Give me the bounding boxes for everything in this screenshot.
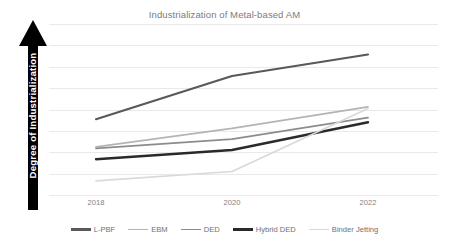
legend-swatch-icon [233,228,253,230]
legend-label: L-PBF [94,225,116,234]
legend-item-ded[interactable]: DED [181,225,220,234]
legend-swatch-icon [309,229,329,231]
legend-label: EBM [151,225,167,234]
legend-item-hybrid-ded[interactable]: Hybrid DED [233,225,296,234]
x-axis: 201820202022 [49,198,438,214]
series-line-l-pbf [96,55,368,120]
legend-item-l-pbf[interactable]: L-PBF [71,225,116,234]
series-lines [49,24,438,196]
legend-swatch-icon [128,229,148,231]
plot-area [49,24,438,196]
series-line-ded [96,118,368,149]
legend-item-ebm[interactable]: EBM [128,225,167,234]
legend-label: DED [204,225,220,234]
legend-label: Binder Jetting [332,225,378,234]
x-tick-label-2022: 2022 [360,198,377,207]
chart-container: Industrialization of Metal-based AM Degr… [0,0,449,246]
legend-item-binder-jetting[interactable]: Binder Jetting [309,225,378,234]
chart-title: Industrialization of Metal-based AM [0,9,449,20]
legend-label: Hybrid DED [256,225,296,234]
legend-swatch-icon [181,229,201,231]
y-axis-arrow [18,20,48,210]
series-line-binder-jetting [96,108,368,180]
legend-swatch-icon [71,228,91,230]
x-tick-label-2018: 2018 [88,198,105,207]
chart-legend: L-PBFEBMDEDHybrid DEDBinder Jetting [0,225,449,234]
x-tick-label-2020: 2020 [224,198,241,207]
